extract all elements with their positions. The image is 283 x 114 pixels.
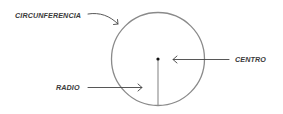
radius-label: RADIO	[56, 83, 80, 92]
center-label: CENTRO	[235, 55, 266, 64]
center-dot	[156, 57, 159, 60]
center-arrow-icon	[173, 56, 229, 63]
circumference-label: CIRCUNFERENCIA	[15, 11, 81, 20]
circumference-arrow-icon	[88, 13, 118, 24]
radius-arrow-icon	[88, 84, 142, 91]
circle-diagram: CIRCUNFERENCIA CENTRO RADIO	[0, 0, 283, 114]
